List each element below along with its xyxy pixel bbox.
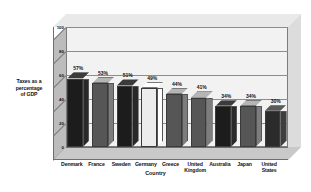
- bar-chart: Taxes as a percentage of GDP 02040608010…: [0, 0, 311, 192]
- bar-series: [53, 14, 301, 160]
- bar-japan: [240, 106, 256, 147]
- bar-side-face: [231, 106, 238, 147]
- bar-value-label-denmark: 57%: [65, 65, 91, 71]
- bar-front-face: [67, 79, 83, 147]
- bar-value-label-united-kingdom: 41%: [189, 84, 215, 90]
- plot-area: 020406080100: [53, 14, 301, 160]
- bar-front-face: [166, 94, 182, 147]
- y-axis-title-line-3: of GDP: [8, 91, 50, 98]
- bar-front-face: [141, 88, 157, 147]
- bar-france: [92, 83, 108, 147]
- y-axis-title-line-1: Taxes as a: [8, 78, 50, 85]
- bar-australia: [215, 106, 231, 147]
- bar-value-label-greece: 44%: [164, 81, 190, 87]
- bar-greece: [166, 94, 182, 147]
- bar-front-face: [265, 111, 281, 147]
- bar-germany: [141, 88, 157, 147]
- bar-side-face: [182, 94, 189, 147]
- bar-sweden: [117, 86, 133, 147]
- bar-side-face: [280, 111, 287, 147]
- bar-united-states: [265, 111, 281, 147]
- bar-side-face: [132, 86, 139, 147]
- bar-side-face: [83, 79, 90, 147]
- bar-front-face: [215, 106, 231, 147]
- bar-front-face: [117, 86, 133, 147]
- bar-value-label-france: 53%: [90, 70, 116, 76]
- y-axis-title: Taxes as a percentage of GDP: [8, 78, 50, 98]
- y-axis-title-line-2: percentage: [8, 85, 50, 92]
- bar-front-face: [240, 106, 256, 147]
- bar-side-face: [157, 88, 164, 147]
- bar-value-label-united-states: 30%: [263, 98, 289, 104]
- bar-front-face: [191, 98, 207, 147]
- bar-value-label-germany: 49%: [139, 75, 165, 81]
- bar-value-label-japan: 34%: [238, 93, 264, 99]
- bar-side-face: [256, 106, 263, 147]
- bar-value-label-sweden: 51%: [115, 72, 141, 78]
- bar-side-face: [108, 83, 115, 147]
- bar-front-face: [92, 83, 108, 147]
- bar-united-kingdom: [191, 98, 207, 147]
- bar-value-label-australia: 34%: [213, 93, 239, 99]
- bar-denmark: [67, 79, 83, 147]
- x-axis-title: Country: [0, 170, 311, 176]
- bar-side-face: [206, 98, 213, 147]
